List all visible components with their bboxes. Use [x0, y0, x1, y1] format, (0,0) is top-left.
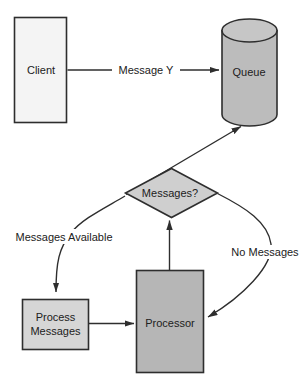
node-process-messages: Process Messages	[23, 300, 89, 350]
process-messages-label-line2: Messages	[30, 325, 81, 337]
node-processor: Processor	[137, 271, 204, 373]
diagram-canvas: Message Y Messages Available No Messages…	[0, 0, 307, 392]
process-messages-label-line1: Process	[36, 311, 76, 323]
queue-cylinder-body	[222, 31, 277, 127]
node-client: Client	[15, 18, 67, 123]
client-label: Client	[27, 64, 55, 76]
node-queue: Queue	[222, 19, 277, 126]
decision-label: Messages?	[142, 187, 198, 199]
queue-cylinder-top	[222, 19, 277, 42]
processor-label: Processor	[145, 317, 195, 329]
edge-label-no-messages: No Messages	[231, 246, 299, 258]
edge-label-message-y: Message Y	[119, 64, 174, 76]
node-decision: Messages?	[126, 169, 218, 218]
queue-label: Queue	[232, 66, 265, 78]
message-queue-flow-diagram: Message Y Messages Available No Messages…	[0, 0, 307, 392]
edge-label-messages-available: Messages Available	[15, 231, 112, 243]
